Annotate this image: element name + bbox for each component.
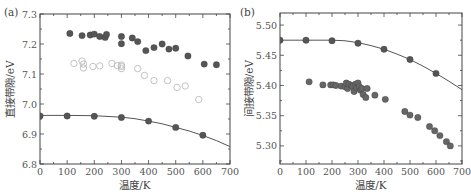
- data-point-calculated: [145, 118, 151, 124]
- data-point-calculated: [433, 70, 439, 76]
- data-point-experiment: [363, 94, 369, 100]
- data-point-experiment-open: [196, 96, 202, 102]
- data-point-calculated: [277, 37, 283, 43]
- data-point-experiment: [426, 123, 432, 129]
- y-tick-label: 5.30: [256, 140, 277, 151]
- x-tick-label: 0: [37, 166, 43, 177]
- data-point-calculated: [173, 124, 179, 130]
- data-point-experiment-filled: [67, 30, 73, 36]
- y-axis-title: 直接带隙/eV: [4, 60, 16, 118]
- data-point-experiment-filled: [118, 41, 124, 47]
- data-point-experiment-open: [71, 60, 77, 66]
- data-point-experiment-filled: [173, 45, 179, 51]
- x-tick-label: 600: [427, 166, 445, 177]
- figure: 01002003004005006007006.86.97.07.17.27.3…: [0, 0, 471, 195]
- data-point-calculated: [118, 114, 124, 120]
- x-tick-label: 100: [58, 166, 76, 177]
- data-point-experiment-filled: [143, 47, 149, 53]
- x-tick-label: 300: [112, 166, 130, 177]
- data-point-experiment: [437, 132, 443, 138]
- x-axis-title: 温度/K: [355, 179, 387, 191]
- x-tick-label: 200: [85, 166, 103, 177]
- y-tick-label: 5.45: [256, 50, 277, 61]
- y-tick-label: 7.3: [22, 9, 37, 20]
- data-point-calculated: [91, 113, 97, 119]
- x-tick-label: 0: [277, 166, 283, 177]
- y-axis-title: 间接带隙/eV: [243, 59, 255, 117]
- x-tick-label: 700: [221, 166, 239, 177]
- data-point-experiment-filled: [118, 33, 124, 39]
- data-point-experiment-open: [135, 65, 141, 71]
- data-point-experiment-open: [97, 63, 103, 69]
- data-point-experiment-filled: [166, 46, 172, 52]
- data-point-experiment-open: [164, 77, 170, 83]
- data-point-experiment-open: [90, 63, 96, 69]
- panel-label: (a): [4, 6, 18, 18]
- plot-frame: [280, 13, 462, 164]
- y-tick-label: 7.2: [22, 39, 37, 50]
- data-point-experiment-filled: [135, 38, 141, 44]
- data-point-experiment-filled: [151, 44, 157, 50]
- y-tick-label: 5.50: [256, 20, 277, 31]
- data-point-experiment: [407, 112, 413, 118]
- data-point-experiment-open: [182, 83, 188, 89]
- data-point-calculated: [381, 46, 387, 52]
- data-point-experiment-open: [141, 72, 147, 78]
- x-tick-label: 700: [453, 166, 471, 177]
- data-point-experiment-filled: [201, 61, 207, 67]
- panel-label: (b): [240, 6, 255, 18]
- data-point-experiment-filled: [185, 53, 191, 59]
- y-tick-label: 6.8: [22, 159, 37, 170]
- data-point-calculated: [200, 132, 206, 138]
- data-point-calculated: [407, 56, 413, 62]
- y-tick-label: 7.0: [22, 99, 37, 110]
- data-point-calculated: [355, 40, 361, 46]
- data-point-experiment: [415, 114, 421, 120]
- data-point-experiment-open: [151, 77, 157, 83]
- data-point-experiment: [306, 79, 312, 85]
- data-point-experiment-filled: [159, 41, 165, 47]
- x-tick-label: 600: [194, 166, 212, 177]
- x-tick-label: 300: [349, 166, 367, 177]
- data-point-experiment: [372, 92, 378, 98]
- data-point-experiment-open: [174, 84, 180, 90]
- data-point-experiment-filled: [79, 32, 85, 38]
- data-point-experiment: [382, 96, 388, 102]
- y-tick-label: 5.40: [256, 80, 277, 91]
- panel-b: 01002003004005006007005.305.355.405.455.…: [240, 6, 471, 191]
- plot-area: [277, 37, 462, 149]
- y-tick-label: 5.35: [256, 110, 277, 121]
- plot-area: [37, 30, 230, 146]
- data-point-calculated: [303, 37, 309, 43]
- x-tick-label: 100: [297, 166, 315, 177]
- data-point-experiment: [432, 128, 438, 134]
- fit-curve-line: [40, 115, 230, 146]
- data-point-experiment: [447, 143, 453, 149]
- data-point-experiment-filled: [129, 35, 135, 41]
- data-point-experiment: [320, 82, 326, 88]
- data-point-experiment-filled: [213, 61, 219, 67]
- y-tick-label: 7.1: [22, 69, 37, 80]
- x-tick-label: 400: [140, 166, 158, 177]
- data-point-calculated: [329, 38, 335, 44]
- x-tick-label: 200: [323, 166, 341, 177]
- data-point-calculated: [37, 113, 43, 119]
- y-tick-label: 6.9: [22, 129, 37, 140]
- x-tick-label: 400: [375, 166, 393, 177]
- x-tick-label: 500: [167, 166, 185, 177]
- x-tick-label: 500: [401, 166, 419, 177]
- panel-a: 01002003004005006007006.86.97.07.17.27.3…: [4, 6, 239, 191]
- data-point-experiment: [364, 85, 370, 91]
- data-point-experiment-filled: [103, 31, 109, 37]
- x-axis-title: 温度/K: [119, 179, 151, 191]
- data-point-calculated: [64, 113, 70, 119]
